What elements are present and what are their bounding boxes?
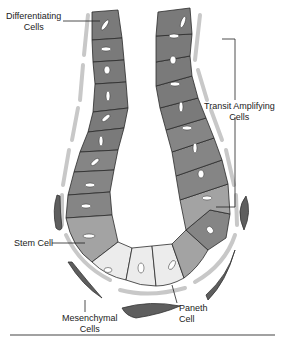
label-stem-cell: Stem Cell	[14, 238, 53, 249]
label-line: Stem Cell	[14, 238, 53, 249]
label-line: Cells	[6, 22, 61, 33]
leader-transit-top	[222, 39, 235, 100]
label-line: Transit Amplifying	[204, 101, 275, 112]
intestinal-crypt-diagram	[0, 0, 283, 340]
label-mesenchymal-cells: Mesenchymal Cells	[62, 313, 118, 335]
label-transit-amplifying-cells: Transit Amplifying Cells	[204, 101, 275, 123]
label-line: Differentiating	[6, 11, 61, 22]
label-line: Cell	[179, 314, 208, 325]
label-line: Paneth	[179, 303, 208, 314]
transit-amplifying-cell	[68, 170, 114, 195]
differentiating-cell	[156, 8, 192, 36]
label-paneth-cell: Paneth Cell	[179, 303, 208, 325]
crypt-epithelium	[66, 8, 230, 286]
label-line: Cells	[204, 112, 275, 123]
label-differentiating-cells: Differentiating Cells	[6, 11, 61, 33]
label-line: Cells	[62, 324, 118, 335]
label-line: Mesenchymal	[62, 313, 118, 324]
leader-paneth	[172, 285, 177, 303]
differentiating-cell	[93, 82, 128, 112]
